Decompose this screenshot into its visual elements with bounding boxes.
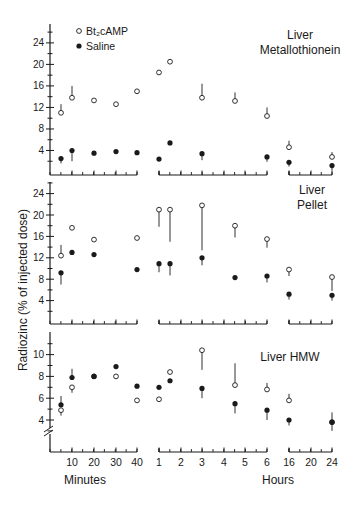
data-point-saline bbox=[91, 151, 96, 156]
panel-title: Liver bbox=[299, 183, 325, 197]
data-point-saline bbox=[156, 385, 161, 390]
data-point-saline bbox=[329, 420, 334, 425]
data-point-bt2camp bbox=[200, 348, 205, 353]
data-point-bt2camp bbox=[92, 98, 97, 103]
data-point-saline bbox=[167, 140, 172, 145]
y-tick-label: 24 bbox=[33, 37, 45, 48]
y-tick-label: 16 bbox=[33, 231, 45, 242]
y-tick-label: 10 bbox=[33, 349, 45, 360]
y-tick-label: 16 bbox=[33, 80, 45, 91]
data-point-saline bbox=[329, 163, 334, 168]
y-tick-label: 20 bbox=[33, 59, 45, 70]
data-point-bt2camp bbox=[135, 236, 140, 241]
y-tick-label: 4 bbox=[38, 145, 44, 156]
x-tick-label: 16 bbox=[283, 456, 295, 468]
x-tick-label: 4 bbox=[221, 456, 227, 468]
legend-label-bt2camp: Bt₂cAMP bbox=[86, 25, 128, 37]
y-tick-label: 8 bbox=[38, 274, 44, 285]
y-tick-label: 12 bbox=[33, 102, 45, 113]
data-point-bt2camp bbox=[114, 374, 119, 379]
data-point-saline bbox=[167, 261, 172, 266]
x-tick-label: 1 bbox=[156, 456, 162, 468]
data-point-saline bbox=[134, 384, 139, 389]
data-point-bt2camp bbox=[114, 102, 119, 107]
x-axis-label-minutes: Minutes bbox=[64, 473, 106, 487]
data-point-bt2camp bbox=[265, 387, 270, 392]
data-point-bt2camp bbox=[330, 275, 335, 280]
x-tick-label: 6 bbox=[264, 456, 270, 468]
y-tick-label: 20 bbox=[33, 210, 45, 221]
legend-open-circle-icon bbox=[77, 29, 82, 34]
data-point-saline bbox=[156, 261, 161, 266]
data-point-saline bbox=[58, 156, 63, 161]
y-tick-label: 8 bbox=[38, 371, 44, 382]
y-tick-label: 8 bbox=[38, 123, 44, 134]
data-point-bt2camp bbox=[70, 95, 75, 100]
x-tick-label: 20 bbox=[88, 456, 100, 468]
x-tick-label: 3 bbox=[199, 456, 205, 468]
data-point-bt2camp bbox=[59, 408, 64, 413]
data-point-bt2camp bbox=[233, 99, 238, 104]
x-tick-label: 2 bbox=[178, 456, 184, 468]
panels: 4812162024LiverMetallothionein4812162024… bbox=[33, 24, 340, 468]
data-point-saline bbox=[91, 374, 96, 379]
data-point-saline bbox=[286, 417, 291, 422]
data-point-saline bbox=[69, 250, 74, 255]
data-point-saline bbox=[232, 401, 237, 406]
data-point-bt2camp bbox=[59, 110, 64, 115]
data-point-bt2camp bbox=[157, 207, 162, 212]
data-point-bt2camp bbox=[233, 223, 238, 228]
data-point-saline bbox=[286, 292, 291, 297]
data-point-saline bbox=[199, 255, 204, 260]
data-point-bt2camp bbox=[168, 59, 173, 64]
data-point-saline bbox=[113, 149, 118, 154]
data-point-bt2camp bbox=[265, 114, 270, 119]
x-tick-label: 24 bbox=[326, 456, 338, 468]
data-point-bt2camp bbox=[330, 155, 335, 160]
data-point-saline bbox=[69, 148, 74, 153]
data-point-saline bbox=[286, 160, 291, 165]
data-point-bt2camp bbox=[157, 397, 162, 402]
data-point-bt2camp bbox=[59, 253, 64, 258]
data-point-saline bbox=[69, 375, 74, 380]
x-tick-label: 10 bbox=[66, 456, 78, 468]
data-point-bt2camp bbox=[92, 237, 97, 242]
data-point-bt2camp bbox=[135, 89, 140, 94]
data-point-bt2camp bbox=[200, 95, 205, 100]
panel-title: Liver bbox=[287, 28, 313, 42]
data-point-bt2camp bbox=[135, 398, 140, 403]
data-point-saline bbox=[134, 267, 139, 272]
data-point-bt2camp bbox=[287, 398, 292, 403]
data-point-saline bbox=[199, 386, 204, 391]
legend-label-saline: Saline bbox=[86, 40, 115, 52]
data-point-bt2camp bbox=[287, 145, 292, 150]
data-point-saline bbox=[199, 151, 204, 156]
panel-title: Liver HMW bbox=[260, 350, 320, 364]
panel-title: Pellet bbox=[297, 198, 328, 212]
y-tick-label: 4 bbox=[38, 415, 44, 426]
data-point-saline bbox=[91, 252, 96, 257]
x-tick-label: 5 bbox=[242, 456, 248, 468]
panel-title: Metallothionein bbox=[260, 43, 341, 57]
data-point-saline bbox=[134, 150, 139, 155]
panel-3: 4681010203040123456162024Liver HMW bbox=[33, 332, 338, 468]
data-point-bt2camp bbox=[287, 267, 292, 272]
legend-filled-circle-icon bbox=[76, 43, 81, 48]
data-point-saline bbox=[264, 154, 269, 159]
data-point-bt2camp bbox=[168, 370, 173, 375]
data-point-saline bbox=[167, 378, 172, 383]
data-point-saline bbox=[329, 293, 334, 298]
data-point-saline bbox=[58, 402, 63, 407]
data-point-saline bbox=[156, 156, 161, 161]
data-point-bt2camp bbox=[70, 385, 75, 390]
data-point-saline bbox=[232, 275, 237, 280]
y-tick-label: 12 bbox=[33, 252, 45, 263]
data-point-saline bbox=[264, 408, 269, 413]
figure: 4812162024LiverMetallothionein4812162024… bbox=[0, 0, 359, 506]
x-tick-label: 40 bbox=[131, 456, 143, 468]
data-point-bt2camp bbox=[265, 237, 270, 242]
data-point-bt2camp bbox=[233, 383, 238, 388]
y-tick-label: 4 bbox=[38, 295, 44, 306]
panel-2: 4812162024LiverPellet bbox=[33, 182, 335, 324]
data-point-saline bbox=[113, 364, 118, 369]
